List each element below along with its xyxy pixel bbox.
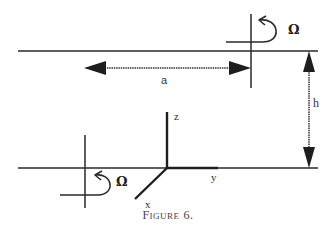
caption-smallcaps: IGURE [150,211,180,221]
axis-z-label: z [174,110,179,122]
coordinate-axes [135,112,218,199]
figure-6-diagram: Ω a h z y x Ω FIGURE6. [0,0,336,231]
figure-caption: FIGURE6. [142,208,193,222]
omega-top-label: Ω [288,22,300,37]
distance-a-label: a [161,74,168,86]
x-axis [135,168,167,199]
axis-y-label: y [211,171,217,183]
caption-initial: F [142,208,149,222]
caption-number: 6. [184,208,194,222]
omega-bottom-label: Ω [116,174,128,189]
distance-a-arrow [84,61,251,75]
height-h-label: h [313,96,319,110]
